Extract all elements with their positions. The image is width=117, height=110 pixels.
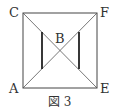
figure-caption: 図 3 bbox=[48, 95, 71, 109]
label-c: C bbox=[9, 5, 19, 20]
label-a: A bbox=[8, 81, 19, 96]
geometry-figure: C F A E B 図 3 bbox=[0, 0, 117, 110]
label-b: B bbox=[55, 31, 65, 46]
label-f: F bbox=[100, 5, 109, 20]
label-e: E bbox=[100, 81, 110, 96]
